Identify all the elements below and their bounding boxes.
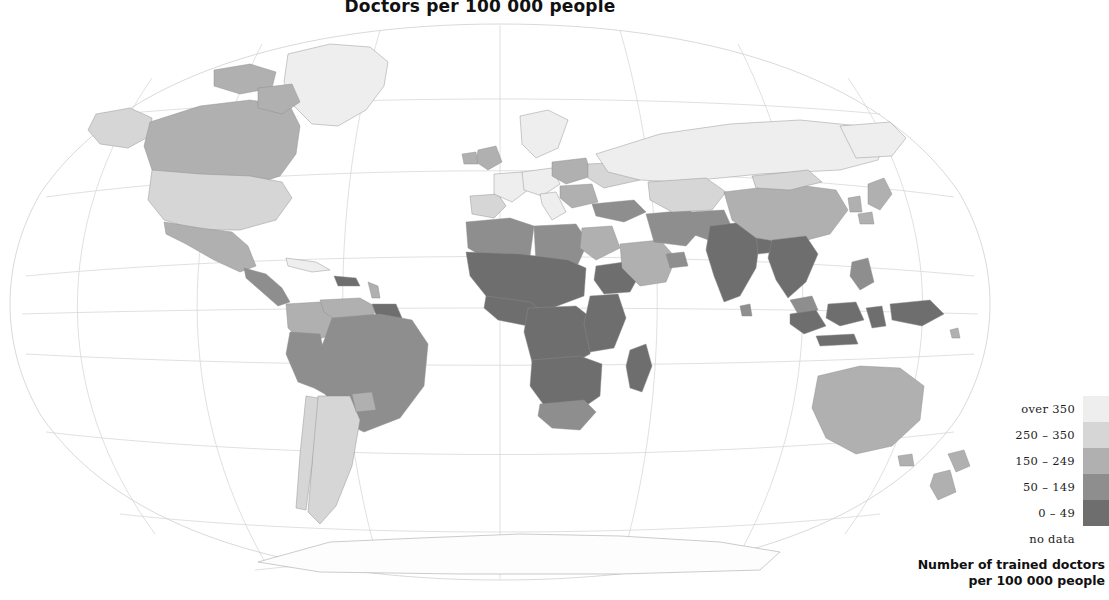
region-gulf-states bbox=[666, 252, 688, 268]
legend-label: 0 – 49 bbox=[1038, 506, 1083, 520]
region-uruguay-paraguay bbox=[352, 392, 376, 412]
legend-swatch bbox=[1083, 396, 1109, 422]
world-map-container bbox=[0, 14, 1000, 600]
legend-swatch bbox=[1083, 474, 1109, 500]
legend-label: no data bbox=[1029, 532, 1083, 546]
map-legend: over 350 250 – 350 150 – 249 50 – 149 0 … bbox=[990, 396, 1109, 552]
legend-swatch bbox=[1083, 526, 1109, 552]
legend-row[interactable]: 50 – 149 bbox=[990, 474, 1109, 500]
map-page: Doctors per 100 000 people bbox=[0, 0, 1109, 600]
region-ireland bbox=[462, 152, 478, 164]
legend-caption-line2: per 100 000 people bbox=[875, 573, 1105, 589]
legend-swatch bbox=[1083, 500, 1109, 526]
legend-row[interactable]: 250 – 350 bbox=[990, 422, 1109, 448]
legend-label: 150 – 249 bbox=[1015, 454, 1083, 468]
region-new-zealand-south bbox=[930, 470, 956, 500]
legend-label: 250 – 350 bbox=[1015, 428, 1083, 442]
region-new-zealand bbox=[948, 450, 970, 472]
world-choropleth-map bbox=[0, 14, 1000, 600]
legend-label: 50 – 149 bbox=[1023, 480, 1083, 494]
legend-swatch bbox=[1083, 448, 1109, 474]
legend-caption-line1: Number of trained doctors bbox=[875, 557, 1105, 573]
legend-swatch bbox=[1083, 422, 1109, 448]
region-tasmania bbox=[898, 454, 914, 466]
region-sri-lanka bbox=[740, 304, 752, 316]
legend-label: over 350 bbox=[1021, 402, 1083, 416]
region-korea bbox=[848, 196, 862, 212]
legend-caption: Number of trained doctors per 100 000 pe… bbox=[875, 557, 1105, 589]
legend-row[interactable]: over 350 bbox=[990, 396, 1109, 422]
legend-row[interactable]: 0 – 49 bbox=[990, 500, 1109, 526]
region-java bbox=[816, 334, 858, 346]
region-japan-south bbox=[858, 212, 874, 224]
legend-row[interactable]: no data bbox=[990, 526, 1109, 552]
region-pacific-islands bbox=[950, 328, 960, 338]
legend-row[interactable]: 150 – 249 bbox=[990, 448, 1109, 474]
